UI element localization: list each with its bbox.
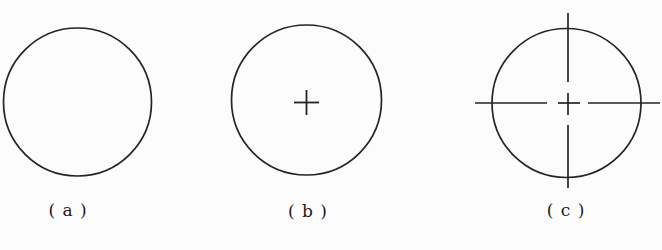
panel-a: ( a ) bbox=[4, 28, 152, 220]
panel-c: ( c ) bbox=[475, 13, 660, 220]
panel-b: ( b ) bbox=[232, 25, 382, 221]
figure-canvas: ( a ) ( b ) ( c ) bbox=[0, 0, 662, 250]
drawing-figure: ( a ) ( b ) ( c ) bbox=[0, 0, 662, 250]
panel-b-label: ( b ) bbox=[288, 201, 328, 221]
panel-c-label: ( c ) bbox=[547, 200, 586, 220]
panel-a-label: ( a ) bbox=[48, 200, 87, 220]
circle-a bbox=[4, 28, 152, 176]
